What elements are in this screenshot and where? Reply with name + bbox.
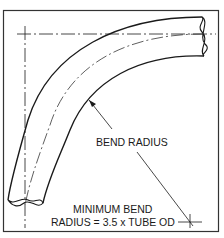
min-bend-label-line1: MINIMUM BEND	[73, 203, 153, 215]
tube-bend-diagram: BEND RADIUS MINIMUM BEND RADIUS = 3.5 x …	[0, 0, 224, 238]
bend-radius-label: BEND RADIUS	[96, 136, 168, 148]
tube-inner-wall	[43, 56, 204, 203]
frame-border	[4, 11, 219, 232]
tube-centerline	[25, 34, 203, 205]
tube-outer-wall	[8, 17, 202, 200]
min-bend-label-line2: RADIUS = 3.5 x TUBE OD	[51, 216, 175, 228]
tube-end-right	[200, 17, 207, 56]
tube-end-bottom	[8, 199, 43, 206]
arrowhead-icon	[89, 100, 96, 107]
